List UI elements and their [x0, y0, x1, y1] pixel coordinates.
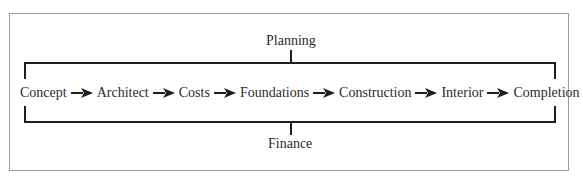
arrow-right-icon — [214, 88, 236, 98]
arrow-right-icon — [487, 88, 509, 98]
planning-bracket-right-end — [554, 62, 556, 79]
arrow-right-icon — [153, 88, 175, 98]
step-completion: Completion — [513, 85, 579, 101]
planning-label: Planning — [266, 33, 316, 49]
step-construction: Construction — [339, 85, 411, 101]
step-foundations: Foundations — [240, 85, 309, 101]
finance-label: Finance — [268, 136, 312, 152]
step-costs: Costs — [179, 85, 210, 101]
step-concept: Concept — [20, 85, 67, 101]
arrow-right-icon — [415, 88, 437, 98]
planning-bracket-bar — [24, 62, 556, 64]
arrow-right-icon — [313, 88, 335, 98]
process-flow: Concept Architect Costs Foundations Cons… — [20, 84, 580, 102]
step-interior: Interior — [441, 85, 483, 101]
finance-tick — [290, 122, 292, 135]
arrow-right-icon — [71, 88, 93, 98]
step-architect: Architect — [97, 85, 149, 101]
planning-bracket-left-end — [24, 62, 26, 79]
